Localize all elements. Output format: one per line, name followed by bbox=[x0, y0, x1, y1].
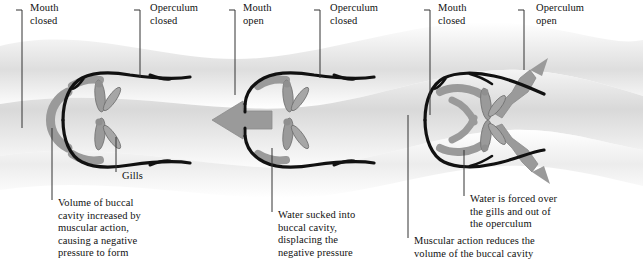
gill-arch-node bbox=[95, 80, 102, 87]
gill-arch-node bbox=[283, 118, 290, 125]
diagram-canvas: Mouth closed Operculum closed Gills Volu… bbox=[0, 0, 643, 262]
gill-arch-node bbox=[482, 145, 489, 152]
water-background bbox=[0, 22, 643, 198]
label-volume-buccal-cavity: Volume of buccal cavity increased by mus… bbox=[58, 197, 141, 260]
label-mouth-closed-1: Mouth closed bbox=[30, 2, 59, 27]
label-mouth-open-2: Mouth open bbox=[243, 2, 272, 27]
label-water-forced-over-gills: Water is forced over the gills and out o… bbox=[470, 193, 557, 231]
gill-arch-node bbox=[283, 80, 290, 87]
label-mouth-closed-3: Mouth closed bbox=[438, 2, 467, 27]
label-water-sucked-in: Water sucked into buccal cavity, displac… bbox=[278, 209, 355, 259]
label-operculum-closed-2: Operculum closed bbox=[330, 2, 378, 27]
label-operculum-closed-1: Operculum closed bbox=[150, 2, 198, 27]
label-gills-1: Gills bbox=[122, 170, 143, 183]
gill-arch-node bbox=[95, 118, 102, 125]
label-operculum-open-3: Operculum open bbox=[536, 2, 584, 27]
label-muscular-action-reduces: Muscular action reduces the volume of th… bbox=[414, 235, 535, 260]
gill-arch-node bbox=[482, 89, 489, 96]
